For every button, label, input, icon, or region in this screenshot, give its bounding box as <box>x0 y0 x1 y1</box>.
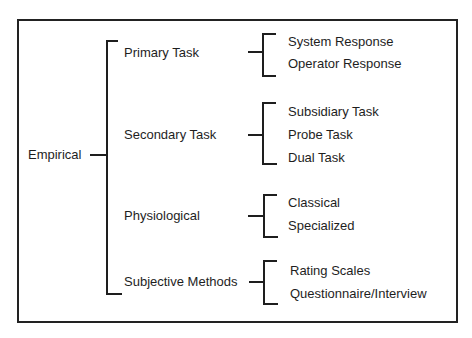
subjective-bracket-spine <box>263 260 265 305</box>
category-physiological: Physiological <box>124 208 200 224</box>
physiological-bracket-top-tick <box>263 194 277 196</box>
secondary-bracket-spine <box>262 102 264 165</box>
main-bracket-bottom-tick <box>106 293 122 295</box>
primary-connector <box>248 51 263 53</box>
physiological-bracket-spine <box>263 194 265 238</box>
primary-bracket-bottom-tick <box>262 75 276 77</box>
leaf-operator-response: Operator Response <box>288 56 401 72</box>
subjective-bracket-bottom-tick <box>263 303 278 305</box>
main-bracket-spine <box>106 40 108 295</box>
leaf-classical: Classical <box>288 195 340 211</box>
root-connector <box>90 154 107 156</box>
category-secondary-task: Secondary Task <box>124 127 216 143</box>
leaf-probe-task: Probe Task <box>288 127 353 143</box>
subjective-connector <box>249 281 264 283</box>
root-node-empirical: Empirical <box>28 147 81 163</box>
primary-bracket-top-tick <box>262 33 276 35</box>
category-subjective-methods: Subjective Methods <box>124 274 237 290</box>
subjective-bracket-top-tick <box>263 260 277 262</box>
primary-bracket-spine <box>262 33 264 77</box>
secondary-bracket-bottom-tick <box>262 163 277 165</box>
secondary-bracket-top-tick <box>262 102 276 104</box>
main-bracket-top-tick <box>106 40 118 42</box>
leaf-questionnaire-interview: Questionnaire/Interview <box>290 286 427 302</box>
physiological-connector <box>248 215 264 217</box>
physiological-bracket-bottom-tick <box>263 236 278 238</box>
category-primary-task: Primary Task <box>124 45 199 61</box>
leaf-dual-task: Dual Task <box>288 150 345 166</box>
secondary-connector <box>248 134 263 136</box>
leaf-specialized: Specialized <box>288 218 355 234</box>
leaf-rating-scales: Rating Scales <box>290 263 370 279</box>
leaf-system-response: System Response <box>288 34 394 50</box>
leaf-subsidiary-task: Subsidiary Task <box>288 104 379 120</box>
